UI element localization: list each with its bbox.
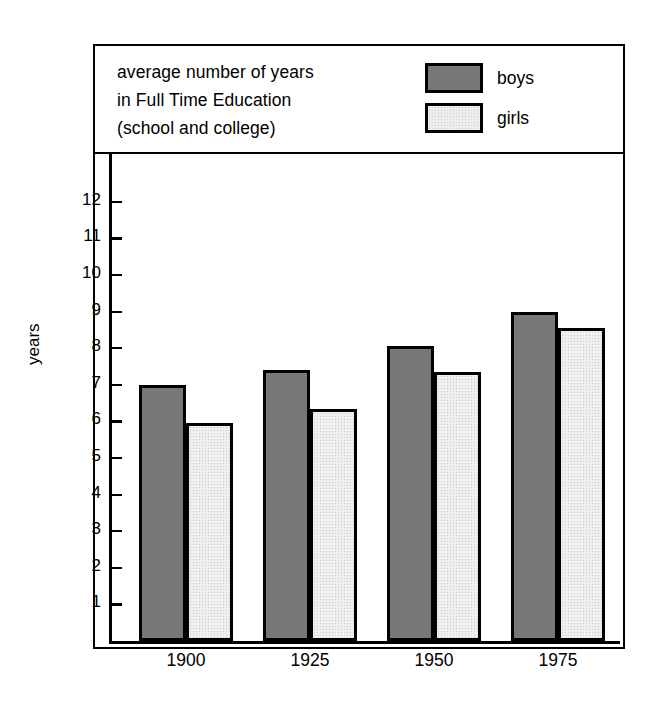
bar-boys-1900 bbox=[139, 385, 186, 641]
chart-title-line-2: in Full Time Education bbox=[117, 86, 314, 114]
bar-chart-figure: average number of years in Full Time Edu… bbox=[0, 0, 658, 726]
legend-swatch-girls-icon bbox=[425, 103, 483, 133]
x-axis-label-1900: 1900 bbox=[167, 650, 206, 671]
bar-boys-1950 bbox=[387, 346, 434, 641]
legend-label-boys: boys bbox=[497, 68, 534, 89]
bar-girls-1975 bbox=[558, 328, 605, 641]
x-axis-label-1950: 1950 bbox=[415, 650, 454, 671]
chart-legend: boys girls bbox=[425, 58, 534, 138]
chart-header-block: average number of years in Full Time Edu… bbox=[95, 46, 623, 154]
legend-item-girls: girls bbox=[425, 98, 534, 138]
chart-frame: average number of years in Full Time Edu… bbox=[93, 44, 625, 649]
legend-item-boys: boys bbox=[425, 58, 534, 98]
bar-girls-1900 bbox=[186, 423, 233, 641]
x-axis-label-1975: 1975 bbox=[539, 650, 578, 671]
legend-label-girls: girls bbox=[497, 108, 529, 129]
chart-title: average number of years in Full Time Edu… bbox=[117, 58, 314, 142]
bar-boys-1975 bbox=[511, 312, 558, 641]
bar-girls-1950 bbox=[434, 372, 481, 641]
y-axis-title: years bbox=[24, 323, 44, 365]
chart-title-line-3: (school and college) bbox=[117, 114, 314, 142]
bar-boys-1925 bbox=[263, 370, 310, 641]
plot-area: 121110987654321 1900192519501975 bbox=[95, 154, 623, 651]
chart-title-line-1: average number of years bbox=[117, 58, 314, 86]
legend-swatch-boys-icon bbox=[425, 63, 483, 93]
x-axis-label-1925: 1925 bbox=[291, 650, 330, 671]
bar-girls-1925 bbox=[310, 409, 357, 641]
bars-group bbox=[95, 154, 623, 643]
